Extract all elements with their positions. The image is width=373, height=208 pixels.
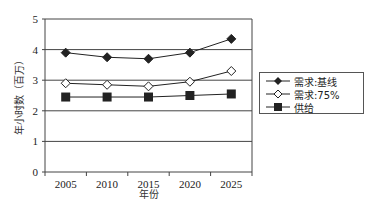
x-tick-label: 2005: [55, 178, 78, 190]
x-tick-label: 2010: [96, 178, 119, 190]
filled-square-icon: [265, 100, 291, 114]
filled-square-icon: [144, 93, 153, 102]
x-axis-ticks: 20052010201520202025: [45, 172, 252, 190]
hollow-diamond-icon: [265, 87, 291, 101]
y-tick-label: 3: [33, 74, 39, 86]
y-axis-ticks: 012345: [33, 13, 46, 178]
x-tick-label: 2025: [220, 178, 243, 190]
y-tick-label: 4: [33, 44, 39, 56]
y-tick-label: 1: [33, 135, 39, 147]
filled-square-icon: [61, 93, 70, 102]
y-axis-title: 年小时数（百万）: [13, 55, 25, 135]
filled-square-icon: [227, 89, 236, 98]
hollow-diamond-icon: [185, 77, 194, 86]
filled-square-icon: [185, 91, 194, 100]
legend-item-supply: 供给: [260, 100, 363, 114]
hollow-diamond-icon: [227, 67, 236, 76]
filled-square-icon: [103, 93, 112, 102]
series-filled-diamond: [61, 34, 236, 63]
chart-legend: 需求:基线 需求:75% 供给: [259, 72, 364, 114]
filled-diamond-icon: [144, 54, 153, 63]
gridlines: [45, 19, 252, 141]
x-tick-label: 2020: [179, 178, 202, 190]
y-tick-label: 2: [33, 105, 39, 117]
x-axis-title: 年份: [139, 188, 159, 200]
filled-diamond-icon: [103, 53, 112, 62]
y-tick-label: 5: [33, 13, 39, 25]
legend-label: 供给: [294, 100, 314, 115]
data-series: [61, 34, 236, 101]
series-hollow-diamond: [61, 67, 236, 91]
filled-diamond-icon: [265, 74, 291, 88]
hollow-diamond-icon: [103, 80, 112, 89]
filled-diamond-icon: [227, 34, 236, 43]
y-tick-label: 0: [33, 166, 39, 178]
hollow-diamond-icon: [144, 82, 153, 91]
